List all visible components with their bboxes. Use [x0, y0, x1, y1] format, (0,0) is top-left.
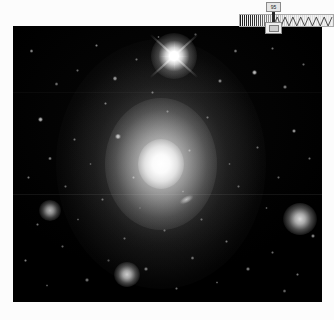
star: [271, 47, 274, 50]
star-halo: [151, 33, 197, 79]
galaxy-core: [138, 139, 184, 189]
star: [311, 234, 315, 238]
intensity-scale-bar[interactable]: [239, 14, 334, 27]
star: [271, 251, 274, 254]
star: [302, 63, 305, 66]
image-viewer-app: 95: [0, 0, 334, 320]
star: [85, 278, 88, 281]
star: [234, 49, 237, 52]
scale-handle-grip-inner: [269, 25, 279, 32]
scale-waveform-icon: [240, 16, 333, 27]
star: [283, 85, 287, 89]
star: [296, 273, 299, 276]
star: [246, 267, 250, 271]
sky-image-frame[interactable]: [13, 26, 322, 302]
scale-handle-grip[interactable]: [265, 22, 282, 34]
scale-value-tooltip: 95: [266, 2, 281, 12]
star: [55, 82, 58, 85]
